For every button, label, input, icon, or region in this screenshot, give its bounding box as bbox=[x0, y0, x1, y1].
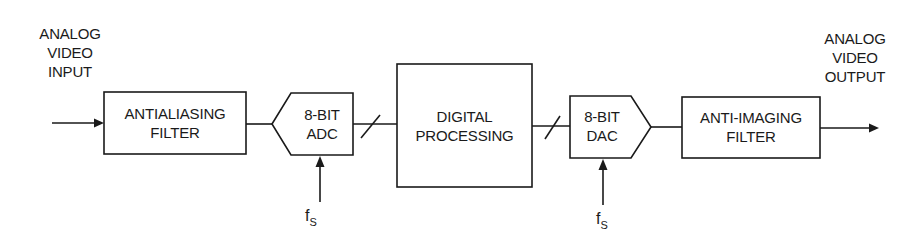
block-label-line: DIGITAL bbox=[397, 107, 532, 126]
block-label-line: 8-BIT bbox=[570, 107, 634, 126]
output-label-line: VIDEO bbox=[810, 48, 900, 67]
clock-subscript: S bbox=[600, 219, 607, 231]
input-label-line: VIDEO bbox=[30, 43, 110, 62]
digital-processing-label: DIGITAL PROCESSING bbox=[397, 107, 532, 145]
input-label-line: INPUT bbox=[30, 62, 110, 81]
block-label-line: FILTER bbox=[104, 123, 246, 142]
adc-clock-arrowhead-icon bbox=[316, 156, 325, 167]
dac-label: 8-BIT DAC bbox=[570, 107, 634, 145]
input-arrowhead-icon bbox=[94, 119, 104, 128]
input-label: ANALOG VIDEO INPUT bbox=[30, 24, 110, 81]
adc-label: 8-BIT ADC bbox=[291, 105, 353, 143]
bus-slash-icon bbox=[361, 115, 380, 138]
block-label-line: DAC bbox=[570, 126, 634, 145]
output-label-line: ANALOG bbox=[810, 29, 900, 48]
block-label-line: ANTIALIASING bbox=[104, 104, 246, 123]
block-label-line: FILTER bbox=[682, 127, 820, 146]
dac-clock-label: fS bbox=[596, 210, 608, 231]
adc-clock-label: fS bbox=[305, 207, 317, 228]
block-label-line: 8-BIT bbox=[291, 105, 353, 124]
block-label-line: PROCESSING bbox=[397, 126, 532, 145]
block-label-line: ANTI-IMAGING bbox=[682, 108, 820, 127]
bus-slash-icon bbox=[545, 116, 560, 139]
input-label-line: ANALOG bbox=[30, 24, 110, 43]
output-arrowhead-icon bbox=[869, 124, 879, 133]
block-label-line: ADC bbox=[291, 124, 353, 143]
output-label-line: OUTPUT bbox=[810, 67, 900, 86]
antialiasing-filter-label: ANTIALIASING FILTER bbox=[104, 104, 246, 142]
dac-clock-arrowhead-icon bbox=[599, 159, 608, 170]
anti-imaging-filter-label: ANTI-IMAGING FILTER bbox=[682, 108, 820, 146]
clock-subscript: S bbox=[309, 216, 316, 228]
output-label: ANALOG VIDEO OUTPUT bbox=[810, 29, 900, 86]
